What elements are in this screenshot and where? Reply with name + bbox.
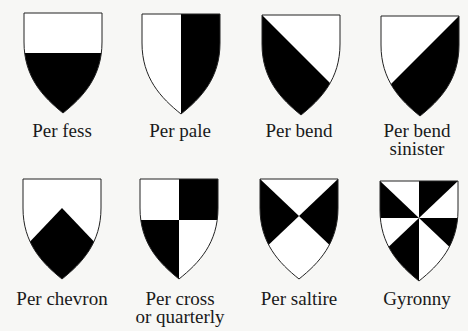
shield-per-saltire-icon — [259, 178, 339, 280]
shield-per-pale-icon — [141, 13, 221, 115]
shield-per-cross-icon — [139, 178, 219, 280]
shield-per-chevron-icon — [22, 178, 102, 280]
label-per-bend-sinister-line2: sinister — [358, 140, 468, 158]
shield-gyronny-icon — [379, 180, 459, 282]
label-per-saltire: Per saltire — [240, 290, 358, 308]
label-gyronny: Gyronny — [358, 290, 468, 308]
label-per-fess: Per fess — [3, 122, 121, 140]
label-per-chevron: Per chevron — [3, 290, 121, 308]
shield-per-bend-sinister-icon — [380, 15, 460, 117]
label-per-cross-line2: or quarterly — [121, 308, 239, 326]
label-per-bend: Per bend — [240, 122, 358, 140]
shield-per-bend-icon — [261, 14, 341, 116]
shield-per-fess-icon — [23, 12, 103, 114]
label-per-pale: Per pale — [121, 122, 239, 140]
